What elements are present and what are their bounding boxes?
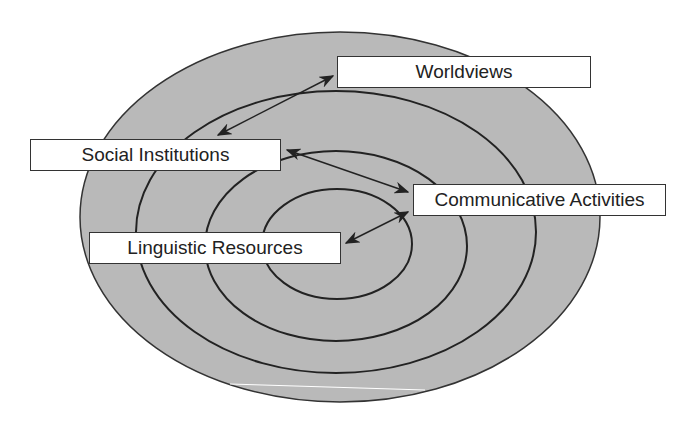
worldviews-label: Worldviews [337, 56, 591, 88]
communicative-activities-label: Communicative Activities [413, 184, 666, 216]
linguistic-resources-label: Linguistic Resources [89, 232, 341, 264]
social-institutions-label: Social Institutions [30, 139, 281, 171]
